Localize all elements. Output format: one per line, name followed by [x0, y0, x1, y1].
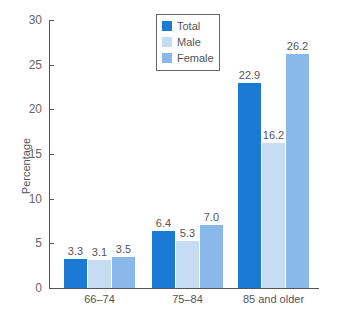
legend-swatch-male: [162, 37, 172, 47]
bar-value-label: 7.0: [197, 211, 227, 223]
bar-value-label: 16.2: [259, 129, 289, 141]
y-tick: [49, 288, 54, 289]
x-category-label: 75–84: [143, 293, 233, 305]
legend-item-male: Male: [162, 34, 219, 50]
y-tick-label: 30: [12, 13, 42, 27]
bar-value-label: 22.9: [235, 69, 265, 81]
bar-male: [88, 260, 111, 288]
bar-chart: Percentage 051015202530 3.33.13.56.45.37…: [0, 0, 338, 313]
legend-label: Total: [177, 20, 200, 32]
bar-value-label: 3.5: [109, 243, 139, 255]
legend: Total Male Female: [156, 14, 220, 71]
bar-female: [200, 225, 223, 288]
y-tick-label: 15: [12, 147, 42, 161]
y-tick-label: 5: [12, 236, 42, 250]
y-tick: [49, 65, 54, 66]
y-tick-label: 25: [12, 58, 42, 72]
bar-female: [286, 54, 309, 288]
legend-item-female: Female: [162, 50, 219, 66]
bar-value-label: 26.2: [283, 40, 313, 52]
x-axis: [49, 288, 319, 289]
x-category-label: 85 and older: [229, 293, 319, 305]
bar-total: [64, 259, 87, 288]
legend-label: Male: [177, 36, 201, 48]
y-tick-label: 10: [12, 192, 42, 206]
bar-total: [238, 83, 261, 288]
x-category-label: 66–74: [55, 293, 145, 305]
y-tick-label: 20: [12, 102, 42, 116]
legend-swatch-female: [162, 53, 172, 63]
y-tick: [49, 243, 54, 244]
y-tick: [49, 109, 54, 110]
y-tick: [49, 199, 54, 200]
bar-value-label: 5.3: [173, 227, 203, 239]
bar-total: [152, 231, 175, 288]
y-tick-label: 0: [12, 281, 42, 295]
bar-male: [262, 143, 285, 288]
y-tick: [49, 20, 54, 21]
y-tick: [49, 154, 54, 155]
bar-male: [176, 241, 199, 288]
bar-female: [112, 257, 135, 288]
legend-item-total: Total: [162, 18, 219, 34]
legend-label: Female: [177, 52, 214, 64]
legend-swatch-total: [162, 21, 172, 31]
